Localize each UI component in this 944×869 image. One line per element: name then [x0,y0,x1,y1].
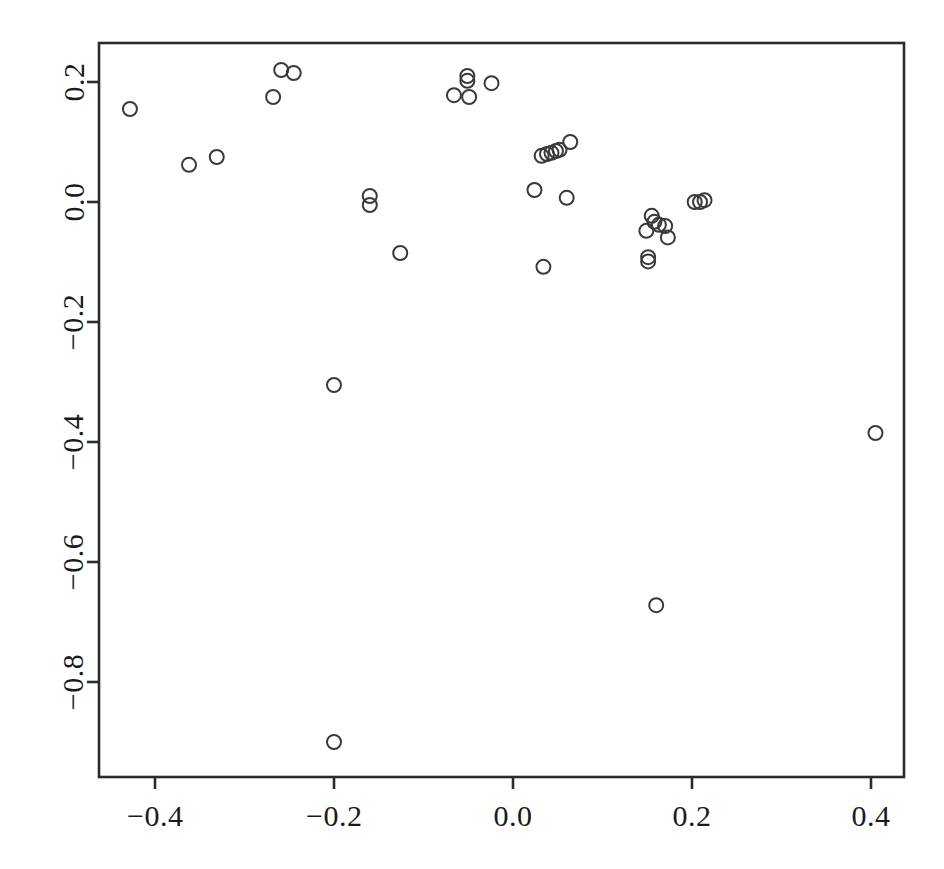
x-tick-label: 0.0 [494,799,533,833]
x-tick-label: 0.2 [673,799,712,833]
data-point [563,135,577,149]
y-tick-label: −0.6 [56,534,90,590]
y-tick-label: 0.2 [56,63,90,102]
data-point [210,150,224,164]
x-tick-label: −0.4 [127,799,183,833]
data-point [868,426,882,440]
data-points [123,63,883,749]
data-point [123,102,137,116]
data-point [287,66,301,80]
y-tick-label: −0.4 [56,414,90,470]
data-point [485,76,499,90]
data-point [698,193,712,207]
x-tick-label: −0.2 [306,799,362,833]
y-tick-label: 0.0 [56,183,90,222]
data-point [649,598,663,612]
plot-canvas [0,0,944,869]
data-point [393,246,407,260]
data-point [527,183,541,197]
data-point [182,158,196,172]
y-tick-label: −0.2 [56,294,90,350]
data-point [536,260,550,274]
y-tick-label: −0.8 [56,654,90,710]
data-point [560,191,574,205]
axis-ticks [87,82,871,789]
data-point [462,90,476,104]
scatter-plot-figure: −0.4−0.20.00.20.4 0.20.0−0.2−0.4−0.6−0.8 [0,0,944,869]
x-tick-label: 0.4 [852,799,891,833]
axis-box [99,43,904,777]
data-point [327,735,341,749]
data-point [266,90,280,104]
data-point [447,88,461,102]
data-point [327,378,341,392]
data-point [363,198,377,212]
